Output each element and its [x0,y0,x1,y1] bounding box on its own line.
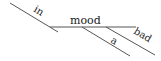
modifier-bad-label: bad [132,25,154,44]
sentence-diagram: in mood a bad [0,0,161,61]
object-label: mood [70,14,101,27]
modifier-a-label: a [109,34,120,47]
diagram-canvas: in mood a bad [0,0,161,61]
modifier-a-line [82,27,130,56]
preposition-line [10,3,58,32]
preposition-label: in [32,3,46,18]
